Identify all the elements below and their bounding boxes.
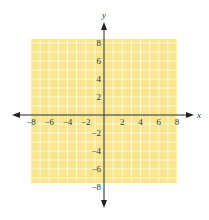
y-tick-label: −4 [91, 146, 101, 156]
y-tick-label: 4 [97, 74, 102, 84]
x-tick-label: −8 [26, 117, 36, 127]
x-axis-right-arrow-icon [186, 112, 194, 118]
y-tick-label: 6 [97, 56, 102, 66]
y-tick-label: −2 [91, 128, 101, 138]
y-axis-top-arrow-icon [101, 22, 107, 30]
x-tick-label: 6 [157, 117, 162, 127]
x-tick-label: −4 [63, 117, 73, 127]
y-tick-label: 8 [97, 38, 102, 48]
coordinate-plane: x y −8−6−4−22468 8642−2−4−6−8 [0, 0, 209, 220]
y-axis-label: y [101, 10, 106, 20]
x-axis-label: x [196, 110, 201, 120]
x-tick-label: 8 [175, 117, 180, 127]
y-axis-bottom-arrow-icon [101, 200, 107, 208]
y-tick-label: −8 [91, 182, 101, 192]
x-tick-label: 4 [138, 117, 143, 127]
x-tick-label: −6 [44, 117, 54, 127]
x-axis-left-arrow-icon [12, 112, 20, 118]
y-tick-label: −6 [91, 164, 101, 174]
y-tick-label: 2 [97, 92, 102, 102]
x-tick-label: −2 [81, 117, 91, 127]
x-tick-label: 2 [120, 117, 125, 127]
